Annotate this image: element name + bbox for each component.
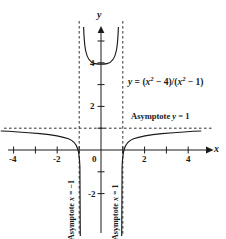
- vertical-asymptote-left-label: Asymptote x = −1: [68, 180, 76, 239]
- horizontal-asymptote-suffix: = 1: [176, 111, 189, 121]
- y-axis-label: y: [97, 10, 101, 20]
- vertical-asymptote-right-prefix: Asymptote: [111, 201, 120, 239]
- x-tick-label-zero: 0: [92, 155, 97, 164]
- y-tick-label-neg2: -2: [88, 190, 96, 199]
- horizontal-asymptote-prefix: Asymptote: [131, 111, 172, 121]
- curve-branch-right: [122, 131, 202, 236]
- vertical-asymptote-left-suffix: = −1: [67, 180, 76, 197]
- x-tick-label-4: 4: [186, 155, 191, 164]
- vertical-asymptote-right-suffix: = 1: [111, 185, 120, 198]
- x-axis-arrow: [206, 147, 214, 154]
- x-axis-label: x: [214, 144, 219, 154]
- function-graph-figure: x y -4 -2 0 2 4 2 4 -2 y = (x2 − 4)/(x2 …: [0, 0, 226, 239]
- horizontal-asymptote-label: Asymptote y = 1: [131, 112, 189, 121]
- equation-annotation: y = (x2 − 4)/(x2 − 1): [128, 76, 204, 88]
- vertical-asymptote-right-var: x: [111, 197, 120, 201]
- x-tick-label-neg4: -4: [9, 155, 17, 164]
- x-tick-label-neg2: -2: [53, 155, 61, 164]
- equation-mid: − 4)/(: [154, 77, 178, 87]
- vertical-asymptote-right-label: Asymptote x = 1: [112, 185, 120, 239]
- y-tick-label-4: 4: [90, 59, 95, 68]
- y-tick-label-2: 2: [90, 102, 95, 111]
- equation-tail: − 1): [185, 77, 203, 87]
- y-axis-arrow: [98, 26, 105, 33]
- x-tick-label-2: 2: [142, 155, 147, 164]
- vertical-asymptote-left-var: x: [67, 197, 76, 201]
- vertical-asymptote-left-prefix: Asymptote: [67, 201, 76, 239]
- equation-eq: = (: [132, 77, 145, 87]
